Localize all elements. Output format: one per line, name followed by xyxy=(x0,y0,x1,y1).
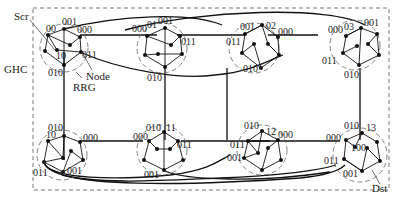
node-address-label: 11 xyxy=(166,122,176,133)
node-address-label: 010 xyxy=(244,120,259,131)
node-address-label: 011 xyxy=(324,155,339,166)
node-address-label: 001 xyxy=(227,152,242,163)
node-address-label: 001 xyxy=(158,15,173,26)
node-address-label: 02 xyxy=(266,20,276,31)
cluster-13 xyxy=(333,128,387,182)
node-address-label: 011 xyxy=(322,55,337,66)
dst-label: Dst xyxy=(372,182,387,194)
node-address-label: 010 xyxy=(48,67,63,78)
node-address-label: 001 xyxy=(62,16,77,27)
ghc-diagram: Scr GHC Node RRG Dst 001 00 000 10 011 0… xyxy=(0,0,396,200)
node-address-label: 010 xyxy=(146,122,161,133)
src-label: Scr xyxy=(14,10,29,22)
node-address-label: 011 xyxy=(226,36,241,47)
node-address-label: 01 xyxy=(147,19,157,30)
node-address-label: 000 xyxy=(83,132,98,143)
node-address-label: 000 xyxy=(326,132,341,143)
node-address-label: 011 xyxy=(181,36,196,47)
node-address-label: 10 xyxy=(46,129,56,140)
ghc-label: GHC xyxy=(4,63,27,75)
node-address-label: 000 xyxy=(278,129,293,140)
node-address-label: 010 xyxy=(243,63,258,74)
node-address-label: 010 xyxy=(344,69,359,80)
node-address-label: 03 xyxy=(344,21,354,32)
node-address-label: 000 xyxy=(278,26,293,37)
node-address-label: 010 xyxy=(344,120,359,131)
node-address-label: 011 xyxy=(82,49,97,60)
node-address-label: 001 xyxy=(364,17,379,28)
rrg-label: RRG xyxy=(73,81,96,93)
inter-cluster-links xyxy=(44,12,365,183)
node-address-label: 011 xyxy=(33,167,48,178)
node-address-label: 001 xyxy=(343,168,358,179)
node-address-label: 100 xyxy=(351,142,366,153)
node-address-label: 001 xyxy=(144,169,159,180)
node-address-label: 011 xyxy=(177,139,192,150)
node-address-label: 001 xyxy=(67,165,82,176)
node-address-label: 000 xyxy=(132,23,147,34)
node-address-label: 010 xyxy=(147,72,162,83)
node-address-label: 12 xyxy=(266,126,276,137)
node-address-label: 000 xyxy=(77,24,92,35)
node-address-label: 000 xyxy=(328,24,343,35)
node-address-label: 011 xyxy=(230,139,245,150)
node-address-label: 001 xyxy=(240,21,255,32)
node-address-label: 10 xyxy=(56,50,66,61)
node-address-label: 13 xyxy=(366,122,376,133)
node-address-label: 00 xyxy=(46,23,56,34)
